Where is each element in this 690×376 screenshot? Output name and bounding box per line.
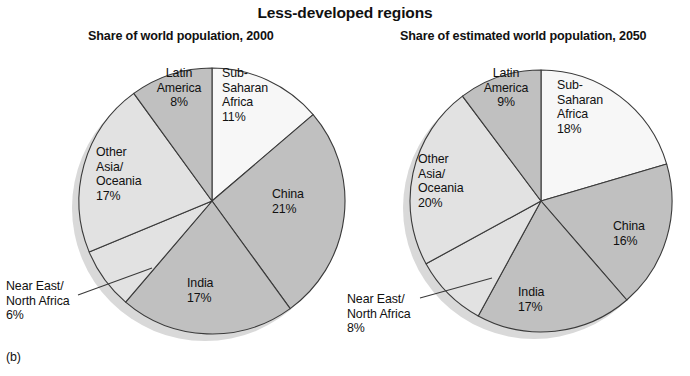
right-label-other-asia-oceania: Other Asia/ Oceania 20% [418,152,463,210]
right-label-china: China 16% [613,219,645,248]
right-value-near-east-north-africa: 8% [347,321,411,336]
right-value-other-asia-oceania: 20% [418,196,463,211]
right-label-sub-saharan-africa: Sub- Saharan Africa 18% [557,78,603,136]
right-pie-panel: Latin America 9% Sub- Saharan Africa 18%… [0,0,690,376]
right-value-india: 17% [518,300,544,315]
right-label-india: India 17% [518,285,544,314]
right-value-china: 16% [613,234,645,249]
right-value-latin-america: 9% [473,95,539,110]
panel-label: (b) [6,350,21,364]
figure-root: Less-developed regions Share of world po… [0,0,690,376]
right-label-near-east-north-africa: Near East/ North Africa 8% [347,292,411,336]
right-label-latin-america: Latin America 9% [473,66,539,110]
right-pie-svg [0,0,690,376]
right-value-sub-saharan-africa: 18% [557,122,603,137]
